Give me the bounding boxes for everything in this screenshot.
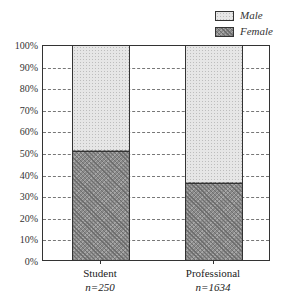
x-label-student: Student	[50, 267, 150, 279]
bar-professional-male-segment	[186, 46, 242, 183]
y-tick-80: 80%	[20, 83, 38, 94]
y-tick-30: 30%	[20, 191, 38, 202]
male-swatch	[215, 11, 234, 21]
y-tick-90: 90%	[20, 61, 38, 72]
x-tick-student	[100, 261, 101, 264]
bar-student	[72, 45, 130, 260]
female-swatch	[215, 27, 234, 37]
segment-divider	[186, 183, 242, 184]
y-tick-100: 100%	[15, 40, 38, 51]
bar-professional-female-segment	[186, 182, 242, 260]
y-tick-70: 70%	[20, 104, 38, 115]
plot-area	[42, 45, 270, 261]
n-label-professional: n=1634	[163, 281, 263, 293]
y-tick-60: 60%	[20, 126, 38, 137]
y-tick-40: 40%	[20, 169, 38, 180]
x-label-professional: Professional	[163, 267, 263, 279]
y-tick-50: 50%	[20, 148, 38, 159]
n-label-student: n=250	[50, 281, 150, 293]
y-tick-20: 20%	[20, 212, 38, 223]
bar-professional	[185, 45, 243, 260]
y-tick-0: 0%	[25, 256, 38, 267]
bar-student-male-segment	[73, 46, 129, 151]
y-tick-10: 10%	[20, 234, 38, 245]
bar-student-female-segment	[73, 150, 129, 260]
x-tick-professional	[213, 261, 214, 264]
legend-label-female: Female	[240, 25, 273, 37]
legend-label-male: Male	[240, 9, 263, 21]
segment-divider	[73, 151, 129, 152]
